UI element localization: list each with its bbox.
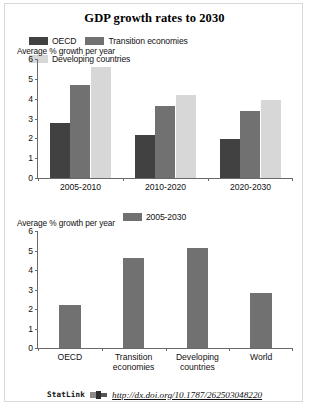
- bar: [135, 135, 155, 178]
- y-axis-tick-mark: [35, 59, 38, 60]
- figure-container: GDP growth rates to 2030 OECDTransition …: [4, 3, 303, 402]
- y-axis-tick-mark: [35, 290, 38, 291]
- legend-swatch-icon: [85, 37, 104, 45]
- bar: [220, 139, 240, 178]
- y-axis-tick-mark: [35, 309, 38, 310]
- statlink-url[interactable]: http://dx.doi.org/10.1787/262503048220: [112, 390, 262, 400]
- legend-item-label: OECD: [52, 36, 76, 46]
- page-title: GDP growth rates to 2030: [5, 11, 304, 26]
- plot-area-top: 01234562005-20102010-20202020-2030: [37, 59, 293, 179]
- y-axis-tick-mark: [35, 231, 38, 232]
- y-axis-tick-mark: [35, 158, 38, 159]
- x-axis-tick-mark: [38, 178, 39, 181]
- statlink-footer: StatLinkhttp://dx.doi.org/10.1787/262503…: [5, 385, 304, 403]
- statlink-label: StatLink: [47, 390, 85, 399]
- statlink-icon: [90, 391, 107, 399]
- bar: [261, 100, 281, 178]
- bar: [176, 95, 196, 178]
- bar: [70, 85, 90, 178]
- x-axis-tick-label: 2010-2020: [145, 183, 186, 193]
- x-axis-tick-label: Transitioneconomies: [113, 353, 155, 372]
- chart-bottom: Average % growth per year 0123456OECDTra…: [5, 218, 304, 380]
- y-axis-tick-mark: [35, 79, 38, 80]
- x-axis-tick-mark: [292, 348, 293, 351]
- x-axis-tick-mark: [123, 178, 124, 181]
- bar: [240, 111, 260, 178]
- x-axis-tick-mark: [292, 178, 293, 181]
- x-axis-tick-mark: [208, 178, 209, 181]
- x-axis-tick-mark: [102, 348, 103, 351]
- x-axis-tick-mark: [166, 348, 167, 351]
- x-axis-tick-label: OECD: [57, 353, 82, 363]
- x-axis-tick-label: 2020-2030: [230, 183, 271, 193]
- plot-area-bottom: 0123456OECDTransitioneconomiesDeveloping…: [37, 231, 293, 349]
- bar: [250, 293, 272, 348]
- y-axis-tick-mark: [35, 329, 38, 330]
- legend-swatch-icon: [29, 37, 48, 45]
- bar: [59, 305, 81, 348]
- y-axis-tick-mark: [35, 119, 38, 120]
- x-axis-tick-label: 2005-2010: [60, 183, 101, 193]
- y-axis-tick-mark: [35, 99, 38, 100]
- legend-item-label: Transition economies: [108, 36, 187, 46]
- bar: [155, 106, 175, 178]
- bar: [50, 123, 70, 178]
- x-axis-tick-mark: [38, 348, 39, 351]
- bar: [187, 248, 209, 348]
- y-axis-tick-mark: [35, 138, 38, 139]
- legend-chart-top: OECDTransition economiesDeveloping count…: [29, 30, 304, 43]
- y-axis-tick-mark: [35, 270, 38, 271]
- x-axis-tick-label: World: [250, 353, 272, 363]
- x-axis-tick-mark: [229, 348, 230, 351]
- chart-top: Average % growth per year 01234562005-20…: [5, 46, 304, 198]
- bar: [91, 67, 111, 178]
- bar: [123, 258, 145, 348]
- y-axis-tick-mark: [35, 251, 38, 252]
- x-axis-tick-label: Developingcountries: [176, 353, 219, 372]
